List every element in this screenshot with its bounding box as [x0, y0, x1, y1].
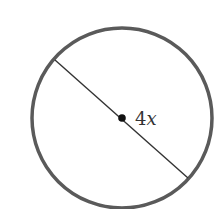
label-number: 4 — [135, 108, 146, 129]
diameter-label: 4x — [135, 108, 157, 129]
label-variable: x — [146, 108, 156, 129]
circle-diagram: 4x — [0, 0, 223, 209]
center-point — [118, 114, 126, 122]
